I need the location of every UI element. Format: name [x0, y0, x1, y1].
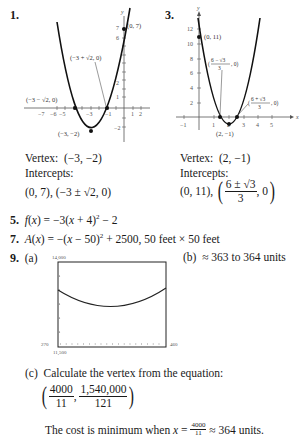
p1-label-left-root: (−3 − √2, 0) — [26, 96, 57, 104]
expression-part: − 2 — [99, 214, 117, 226]
fraction-denominator: 11 — [194, 430, 203, 437]
fraction-denominator: 121 — [94, 397, 113, 409]
expression-part: − 50) — [72, 233, 100, 245]
expression-part: + 4) — [74, 214, 96, 226]
p1-y-axis-label: y — [120, 9, 124, 15]
conclusion-result: ≈ 364 units. — [206, 424, 263, 436]
p1-intercepts-label: Intercepts: — [25, 167, 74, 179]
p3-x-tick: 5 — [270, 122, 273, 128]
part-a-label: (a) — [25, 252, 38, 264]
svg-text:, 0): , 0) — [271, 100, 279, 107]
graph-x-min: 270 — [41, 342, 49, 347]
graph-x-max: 460 — [170, 342, 178, 347]
graph-y-min: 11,500 — [53, 350, 67, 356]
p1-y-tick: −2 — [114, 125, 120, 131]
p1-x-tick: 2 — [139, 111, 142, 117]
p3-label-left-root: ( 6 − √3 3 , 0) — [208, 57, 239, 71]
vertex-x-fraction: 4000 11 — [49, 383, 74, 408]
p3-y-tick: 8 — [190, 56, 193, 62]
p1-x-tick: −3 — [86, 111, 92, 117]
fraction-numerator: 6 ± √3 — [225, 178, 257, 191]
part-c: (c) Calculate the vertex from the equati… — [25, 367, 223, 379]
p3-intercepts-value: (0, 11), ( 6 ± √3 3 , 0 ) — [180, 178, 277, 204]
p1-y-tick: 7 — [116, 25, 119, 31]
equals-sign: = — [178, 424, 190, 436]
fraction-numerator: 1,540,000 — [79, 383, 127, 396]
vertex-result: ( 4000 11 , 1,540,000 121 ) — [40, 383, 136, 409]
p3-intercepts-prefix: (0, 11), — [180, 185, 213, 197]
svg-text:3: 3 — [258, 104, 261, 110]
function-name: A — [25, 233, 32, 245]
p1-x-tick: 1 — [131, 111, 134, 117]
p3-vertex-label: Vertex: — [180, 152, 213, 164]
problem-3-graph: x y −1 1 2 3 4 5 12 10 8 6 4 2 (0, 11) (… — [150, 0, 305, 150]
svg-text:, 0): , 0) — [231, 61, 239, 68]
p3-x-tick: 3 — [242, 122, 245, 128]
p1-label-vertex: (−3, −2) — [58, 130, 79, 138]
problem-1-graph: y −7 −6 −5 −3 −1 1 2 7 6 2 1 −2 (0, 7) (… — [0, 0, 150, 150]
svg-text:6 − √3: 6 − √3 — [211, 57, 226, 63]
p3-y-tick: 2 — [190, 100, 193, 106]
part-c-text: Calculate the vertex from the equation: — [44, 367, 224, 379]
conclusion-fraction: 4000 11 — [190, 422, 206, 438]
expression-part: ) = −3( — [37, 214, 69, 226]
problem-9-calculator-graph: 14,000 270 460 11,500 — [40, 252, 190, 357]
function-name: f — [25, 214, 28, 226]
problem-9-number: 9. — [10, 251, 19, 265]
part-b: (b) ≈ 363 to 364 units — [183, 251, 286, 263]
p3-x-tick: 4 — [256, 122, 259, 128]
part-c-label: (c) — [25, 367, 38, 379]
p3-label-y-intercept: (0, 11) — [204, 33, 221, 41]
p3-y-tick: 6 — [190, 70, 193, 76]
svg-text:(: ( — [208, 61, 210, 68]
p1-x-tick: −6 — [50, 111, 56, 117]
p1-y-tick: 2 — [116, 80, 119, 86]
fraction-numerator: 4000 — [49, 383, 74, 396]
fraction-denominator: 11 — [55, 397, 68, 409]
problem-7: 7. A(x) = −(x − 50)2 + 2500, 50 feet × 5… — [10, 232, 220, 247]
p1-vertex-value: (−3, −2) — [64, 152, 102, 164]
p1-x-tick: −5 — [59, 111, 65, 117]
part-b-answer: ≈ 363 to 364 units — [202, 251, 286, 263]
p1-intercepts-value: (0, 7), (−3 ± √2, 0) — [25, 186, 111, 198]
p3-y-tick: 12 — [187, 26, 193, 32]
svg-text:6 + √3: 6 + √3 — [251, 96, 266, 102]
problem-5-number: 5. — [10, 213, 19, 227]
p1-label-right-root: (−3 + √2, 0) — [70, 54, 101, 62]
problem-9-header: 9. (a) — [10, 251, 38, 266]
expression-part: ) = −( — [41, 233, 67, 245]
p3-label-right-root: ( 6 + √3 3 , 0) — [248, 96, 279, 110]
vertex-y-fraction: 1,540,000 121 — [79, 383, 127, 408]
conclusion: The cost is minimum when x = 4000 11 ≈ 3… — [45, 422, 264, 438]
p3-intercepts-suffix: , 0 — [257, 185, 269, 197]
expression-part: + 2500, 50 feet × 50 feet — [103, 233, 219, 245]
p3-y-axis-label: y — [196, 5, 200, 11]
problem-5: 5. f(x) = −3(x + 4)2 − 2 — [10, 213, 117, 228]
p1-x-tick: −7 — [38, 111, 44, 117]
p3-vertex-line: Vertex: (2, −1) — [180, 152, 250, 164]
p1-x-tick: −1 — [105, 111, 111, 117]
p3-x-axis-label: x — [295, 114, 299, 120]
p3-y-tick: 4 — [190, 85, 193, 91]
p3-x-tick: −1 — [180, 122, 186, 128]
p3-intercepts-fraction: 6 ± √3 3 — [225, 178, 257, 203]
problem-7-number: 7. — [10, 232, 19, 246]
p1-label-y-intercept: (0, 7) — [127, 22, 141, 30]
conclusion-text: The cost is minimum when — [45, 424, 173, 436]
p1-vertex-label: Vertex: — [25, 152, 58, 164]
p1-y-tick: 6 — [116, 35, 119, 41]
svg-text:(: ( — [248, 100, 250, 107]
fraction-denominator: 3 — [237, 192, 245, 204]
graph-y-max: 14,000 — [52, 255, 66, 261]
p3-vertex-value: (2, −1) — [219, 152, 250, 164]
p3-label-vertex: (2, −1) — [216, 130, 234, 138]
p3-x-tick: 1 — [212, 122, 215, 128]
p3-y-tick: 10 — [187, 41, 193, 47]
p1-y-tick: 1 — [116, 94, 119, 100]
p1-vertex-line: Vertex: (−3, −2) — [25, 152, 102, 164]
svg-text:3: 3 — [218, 65, 221, 71]
